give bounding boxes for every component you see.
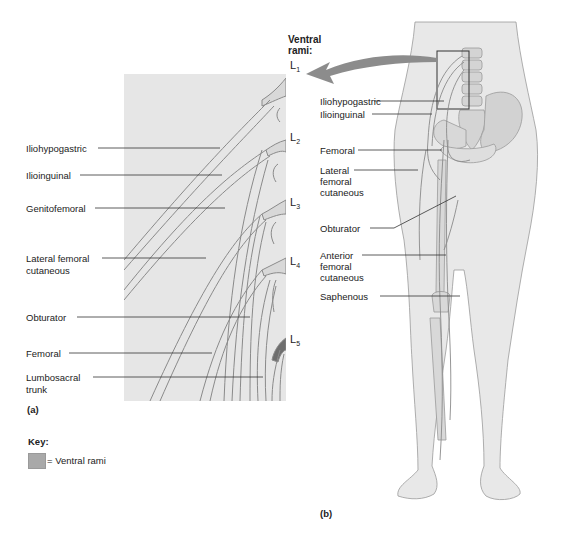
label-lateral-femoral-cutaneous-b-line2: femoral: [320, 176, 352, 187]
spinal-level-l3: L3: [290, 197, 300, 209]
key-label-ventral-rami: = Ventral rami: [47, 455, 106, 466]
spinal-level-l4: L4: [290, 256, 300, 268]
label-anterior-femoral-cutaneous-line3: cutaneous: [320, 272, 364, 283]
label-lateral-femoral-cutaneous-b-line3: cutaneous: [320, 187, 364, 198]
label-saphenous: Saphenous: [320, 291, 368, 302]
key-swatch-ventral-rami: [28, 453, 46, 469]
label-ilioinguinal-a: Ilioinguinal: [26, 170, 71, 181]
ventral-rami-heading-line2: rami:: [288, 45, 312, 56]
label-lateral-femoral-cutaneous-b-line1: Lateral: [320, 165, 349, 176]
label-lateral-femoral-cutaneous-a-line2: cutaneous: [26, 265, 70, 276]
panel-a-caption: (a): [27, 404, 39, 415]
label-obturator-a: Obturator: [26, 312, 66, 323]
panel-b-body-figure: [394, 22, 538, 500]
spinal-level-l5: L5: [290, 334, 300, 346]
panel-b-caption: (b): [320, 508, 332, 519]
spinal-level-l2: L2: [290, 132, 300, 144]
key-title: Key:: [28, 436, 49, 447]
label-lumbosacral-trunk-line1: Lumbosacral: [26, 372, 80, 383]
spinal-level-l1: L1: [290, 60, 300, 72]
label-iliohypogastric-b: Iliohypogastric: [320, 96, 381, 107]
label-iliohypogastric-a: Iliohypogastric: [26, 143, 87, 154]
label-genitofemoral-a: Genitofemoral: [26, 203, 86, 214]
label-anterior-femoral-cutaneous-line1: Anterior: [320, 250, 353, 261]
ventral-rami-heading-line1: Ventral: [288, 34, 321, 45]
label-femoral-b: Femoral: [320, 145, 355, 156]
label-anterior-femoral-cutaneous-line2: femoral: [320, 261, 352, 272]
label-obturator-b: Obturator: [320, 223, 360, 234]
label-femoral-a: Femoral: [26, 348, 61, 359]
label-lateral-femoral-cutaneous-a-line1: Lateral femoral: [26, 253, 89, 264]
label-lumbosacral-trunk-line2: trunk: [26, 384, 47, 395]
label-ilioinguinal-b: Ilioinguinal: [320, 109, 365, 120]
